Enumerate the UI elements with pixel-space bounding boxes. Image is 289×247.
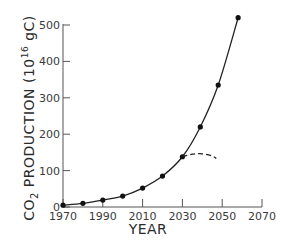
y-tick-label: 100 [39, 165, 60, 178]
y-ticks: 0100200300400500 [39, 19, 70, 214]
data-point-marker [216, 82, 221, 87]
alternative-projection-dashed-line [182, 154, 216, 159]
y-tick-label: 400 [39, 55, 60, 68]
series [60, 15, 240, 208]
data-point-marker [60, 203, 65, 208]
data-point-marker [160, 173, 165, 178]
x-tick-label: 1990 [89, 210, 117, 223]
x-axis-title: YEAR [128, 221, 168, 237]
y-axis-title: CO2 PRODUCTION (1016 gC) [20, 15, 40, 221]
x-tick-label: 1970 [49, 210, 77, 223]
y-tick-label: 300 [39, 92, 60, 105]
data-point-marker [140, 185, 145, 190]
data-point-marker [80, 201, 85, 206]
x-tick-label: 2050 [208, 210, 236, 223]
data-point-marker [198, 124, 203, 129]
data-point-marker [100, 197, 105, 202]
y-tick-label: 500 [39, 19, 60, 32]
co2-growth-line [63, 18, 238, 205]
axes [63, 24, 262, 207]
data-point-marker [120, 193, 125, 198]
data-point-marker [236, 15, 241, 20]
y-tick-label: 200 [39, 128, 60, 141]
co2-production-chart: 0100200300400500 19701990201020302050207… [0, 0, 289, 247]
x-tick-label: 2030 [168, 210, 196, 223]
x-tick-label: 2070 [248, 210, 276, 223]
